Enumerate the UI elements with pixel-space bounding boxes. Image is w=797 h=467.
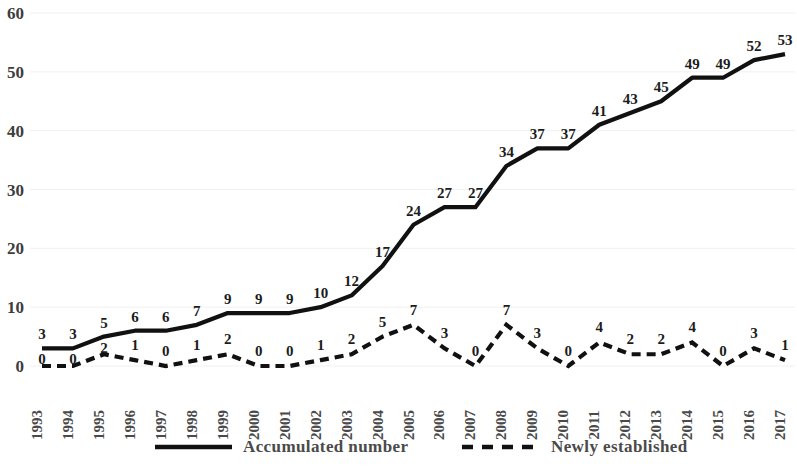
data-label-accumulated: 9 bbox=[286, 291, 294, 307]
data-label-newly-established: 0 bbox=[162, 343, 170, 359]
data-label-newly-established: 3 bbox=[441, 325, 449, 341]
data-label-newly-established: 2 bbox=[657, 331, 665, 347]
data-label-newly-established: 0 bbox=[472, 343, 480, 359]
data-label-accumulated: 3 bbox=[38, 326, 46, 342]
chart-canvas: 0102030405060 19931994199519961997199819… bbox=[0, 0, 797, 467]
x-axis-tick-label: 2007 bbox=[462, 410, 478, 441]
data-label-accumulated: 45 bbox=[654, 79, 669, 95]
x-axis-tick-label: 1994 bbox=[60, 410, 76, 441]
x-axis-tick-label: 2003 bbox=[339, 410, 355, 440]
data-label-accumulated: 9 bbox=[255, 291, 263, 307]
y-axis-tick-label: 20 bbox=[7, 239, 24, 258]
x-axis-tick-label: 2013 bbox=[648, 410, 664, 440]
x-axis-tick-label: 2008 bbox=[493, 410, 509, 440]
x-axis-tick-label: 2012 bbox=[617, 410, 633, 440]
data-label-newly-established: 1 bbox=[193, 337, 201, 353]
x-axis-tick-label: 2015 bbox=[710, 410, 726, 440]
data-label-accumulated: 49 bbox=[716, 56, 731, 72]
x-axis-tick-label: 2002 bbox=[308, 410, 324, 440]
data-label-newly-established: 1 bbox=[131, 337, 139, 353]
data-label-newly-established: 3 bbox=[534, 325, 542, 341]
x-axis-tick-label: 1997 bbox=[153, 410, 169, 441]
x-axis-tick-label: 1998 bbox=[184, 410, 200, 440]
data-label-newly-established: 0 bbox=[719, 343, 727, 359]
data-label-newly-established: 5 bbox=[379, 314, 387, 330]
data-label-newly-established: 3 bbox=[750, 325, 758, 341]
data-label-accumulated: 52 bbox=[747, 38, 762, 54]
y-axis-tick-label: 60 bbox=[7, 4, 24, 23]
x-axis-tick-label: 2010 bbox=[555, 410, 571, 440]
data-label-accumulated: 6 bbox=[162, 309, 170, 325]
x-axis-tick-label: 1995 bbox=[91, 410, 107, 440]
data-label-accumulated: 10 bbox=[313, 285, 328, 301]
data-label-newly-established: 7 bbox=[503, 302, 511, 318]
legend-label: Newly established bbox=[551, 437, 688, 456]
data-label-accumulated: 9 bbox=[224, 291, 232, 307]
x-axis-tick-label: 2004 bbox=[370, 410, 386, 441]
data-label-newly-established: 4 bbox=[596, 319, 604, 335]
data-label-accumulated: 24 bbox=[406, 203, 422, 219]
data-label-newly-established: 7 bbox=[410, 302, 418, 318]
data-label-newly-established: 2 bbox=[348, 331, 356, 347]
x-axis-tick-label: 2005 bbox=[401, 410, 417, 440]
x-axis-tick-labels: 1993199419951996199719981999200020012002… bbox=[29, 410, 788, 441]
data-label-newly-established: 0 bbox=[38, 351, 46, 367]
data-label-newly-established: 2 bbox=[626, 331, 634, 347]
data-label-accumulated: 12 bbox=[344, 273, 359, 289]
x-axis-tick-label: 2016 bbox=[741, 410, 757, 441]
data-label-newly-established: 2 bbox=[100, 340, 108, 356]
data-label-newly-established: 0 bbox=[286, 343, 294, 359]
chart-legend: Accumulated numberNewly established bbox=[155, 437, 688, 456]
y-axis-tick-label: 40 bbox=[7, 122, 24, 141]
y-axis-tick-label: 30 bbox=[7, 181, 24, 200]
legend-label: Accumulated number bbox=[243, 437, 408, 456]
x-axis-tick-label: 2011 bbox=[586, 410, 602, 439]
data-label-accumulated: 6 bbox=[131, 309, 139, 325]
data-label-accumulated: 41 bbox=[592, 103, 607, 119]
data-label-accumulated: 37 bbox=[561, 126, 577, 142]
x-axis-tick-label: 2017 bbox=[772, 410, 788, 441]
data-label-accumulated: 49 bbox=[685, 56, 700, 72]
y-axis-tick-label: 50 bbox=[7, 63, 24, 82]
data-label-accumulated: 27 bbox=[437, 185, 453, 201]
y-axis-tick-label: 0 bbox=[16, 357, 25, 376]
data-label-newly-established: 0 bbox=[69, 351, 77, 367]
y-axis-tick-label: 10 bbox=[7, 298, 24, 317]
x-axis-tick-label: 1993 bbox=[29, 410, 45, 440]
data-point-labels: 3356679991012172427273437374143454949525… bbox=[38, 32, 792, 367]
x-axis-tick-label: 2006 bbox=[431, 410, 447, 441]
data-label-accumulated: 34 bbox=[499, 144, 515, 160]
data-label-newly-established: 0 bbox=[255, 343, 263, 359]
x-axis-tick-label: 1999 bbox=[215, 410, 231, 440]
data-label-newly-established: 2 bbox=[224, 331, 232, 347]
x-axis-tick-label: 2000 bbox=[246, 410, 262, 440]
data-label-accumulated: 3 bbox=[69, 326, 77, 342]
x-axis-tick-label: 2014 bbox=[679, 410, 695, 441]
data-label-newly-established: 1 bbox=[317, 337, 325, 353]
x-axis-tick-label: 1996 bbox=[122, 410, 138, 441]
data-label-accumulated: 5 bbox=[100, 315, 108, 331]
data-label-accumulated: 17 bbox=[375, 244, 391, 260]
data-label-accumulated: 43 bbox=[623, 91, 638, 107]
y-axis-tick-labels: 0102030405060 bbox=[7, 4, 24, 376]
x-axis-tick-label: 2001 bbox=[277, 410, 293, 440]
data-label-newly-established: 4 bbox=[688, 319, 696, 335]
data-label-accumulated: 53 bbox=[778, 32, 793, 48]
line-chart: 0102030405060 19931994199519961997199819… bbox=[0, 0, 797, 467]
data-label-accumulated: 37 bbox=[530, 126, 546, 142]
data-label-newly-established: 0 bbox=[565, 343, 573, 359]
data-label-accumulated: 7 bbox=[193, 303, 201, 319]
x-axis-tick-label: 2009 bbox=[524, 410, 540, 440]
data-label-accumulated: 27 bbox=[468, 185, 484, 201]
data-label-newly-established: 1 bbox=[781, 337, 789, 353]
